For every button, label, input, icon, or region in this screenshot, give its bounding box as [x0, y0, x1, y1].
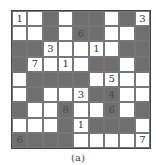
unshaded-cell: 1	[12, 11, 27, 26]
unshaded-cell	[104, 11, 119, 26]
unshaded-cell	[104, 133, 119, 148]
unshaded-cell	[43, 87, 58, 102]
puzzle-grid: 136317153486167	[11, 10, 151, 149]
shaded-cell: 6	[104, 102, 119, 117]
shaded-cell: 4	[104, 87, 119, 102]
shaded-cell	[89, 57, 104, 72]
unshaded-cell	[89, 72, 104, 87]
unshaded-cell	[58, 11, 73, 26]
shaded-cell	[43, 72, 58, 87]
unshaded-cell	[12, 26, 27, 41]
shaded-cell	[135, 57, 150, 72]
shaded-cell	[27, 72, 42, 87]
unshaded-cell	[73, 41, 88, 56]
unshaded-cell	[104, 41, 119, 56]
unshaded-cell: 3	[135, 11, 150, 26]
figure-caption: (a)	[0, 152, 156, 163]
unshaded-cell	[119, 133, 134, 148]
shaded-cell	[58, 72, 73, 87]
unshaded-cell	[43, 57, 58, 72]
unshaded-cell	[43, 102, 58, 117]
unshaded-cell	[119, 72, 134, 87]
shaded-cell	[43, 133, 58, 148]
shaded-cell	[135, 41, 150, 56]
unshaded-cell	[27, 118, 42, 133]
shaded-cell	[73, 11, 88, 26]
unshaded-cell	[27, 26, 42, 41]
unshaded-cell	[135, 118, 150, 133]
shaded-cell	[119, 41, 134, 56]
unshaded-cell	[43, 118, 58, 133]
shaded-cell	[119, 118, 134, 133]
shaded-cell	[12, 57, 27, 72]
unshaded-cell	[89, 133, 104, 148]
shaded-cell	[89, 11, 104, 26]
shaded-cell	[89, 26, 104, 41]
shaded-cell	[43, 26, 58, 41]
shaded-cell	[104, 118, 119, 133]
shaded-cell: 6	[12, 133, 27, 148]
unshaded-cell	[58, 26, 73, 41]
unshaded-cell	[58, 41, 73, 56]
unshaded-cell	[119, 26, 134, 41]
unshaded-cell	[73, 102, 88, 117]
shaded-cell	[89, 87, 104, 102]
shaded-cell	[104, 57, 119, 72]
shaded-cell	[27, 41, 42, 56]
unshaded-cell: 3	[43, 41, 58, 56]
unshaded-cell: 1	[73, 118, 88, 133]
unshaded-cell: 5	[104, 72, 119, 87]
unshaded-cell: 1	[58, 57, 73, 72]
shaded-cell	[12, 41, 27, 56]
shaded-cell	[119, 11, 134, 26]
unshaded-cell: 7	[27, 57, 42, 72]
unshaded-cell	[119, 102, 134, 117]
shaded-cell	[27, 133, 42, 148]
unshaded-cell	[89, 102, 104, 117]
shaded-cell	[58, 118, 73, 133]
unshaded-cell	[27, 102, 42, 117]
shaded-cell	[27, 87, 42, 102]
shaded-cell	[73, 72, 88, 87]
unshaded-cell	[119, 87, 134, 102]
unshaded-cell	[73, 133, 88, 148]
unshaded-cell	[27, 11, 42, 26]
shaded-cell	[89, 118, 104, 133]
unshaded-cell: 7	[135, 133, 150, 148]
shaded-cell	[58, 133, 73, 148]
shaded-cell: 6	[73, 26, 88, 41]
unshaded-cell	[135, 72, 150, 87]
unshaded-cell	[119, 57, 134, 72]
unshaded-cell	[73, 57, 88, 72]
shaded-cell	[135, 102, 150, 117]
unshaded-cell: 1	[89, 41, 104, 56]
shaded-cell: 8	[58, 102, 73, 117]
unshaded-cell	[135, 87, 150, 102]
unshaded-cell	[104, 26, 119, 41]
shaded-cell	[43, 11, 58, 26]
unshaded-cell	[12, 72, 27, 87]
unshaded-cell	[12, 87, 27, 102]
unshaded-cell	[58, 87, 73, 102]
unshaded-cell	[12, 118, 27, 133]
unshaded-cell: 3	[73, 87, 88, 102]
shaded-cell	[135, 26, 150, 41]
shaded-cell	[12, 102, 27, 117]
